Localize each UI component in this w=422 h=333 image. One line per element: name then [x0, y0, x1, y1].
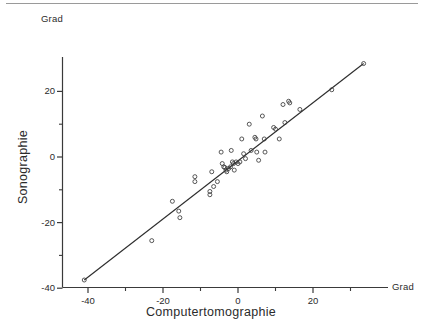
- data-point: [232, 168, 236, 172]
- data-point: [244, 157, 248, 161]
- scatter-plot-figure: Grad Grad Sonographie Computertomographi…: [0, 0, 422, 333]
- data-point: [215, 180, 219, 184]
- data-point: [257, 158, 261, 162]
- data-point: [247, 122, 251, 126]
- data-point: [177, 209, 181, 213]
- data-point: [263, 150, 267, 154]
- axes-group: [57, 57, 388, 293]
- data-point: [193, 175, 197, 179]
- data-point: [178, 216, 182, 220]
- data-point: [150, 239, 154, 243]
- data-point: [260, 114, 264, 118]
- data-point: [242, 152, 246, 156]
- data-point: [277, 137, 281, 141]
- plot-canvas: [0, 0, 422, 333]
- data-point: [170, 199, 174, 203]
- data-point: [210, 170, 214, 174]
- data-point: [229, 148, 233, 152]
- data-point: [212, 185, 216, 189]
- data-point: [240, 137, 244, 141]
- data-point: [219, 150, 223, 154]
- data-point: [298, 107, 302, 111]
- data-point: [255, 150, 259, 154]
- regression-line: [84, 64, 363, 280]
- data-point: [193, 180, 197, 184]
- regression-line-segment: [84, 64, 363, 280]
- data-point: [281, 103, 285, 107]
